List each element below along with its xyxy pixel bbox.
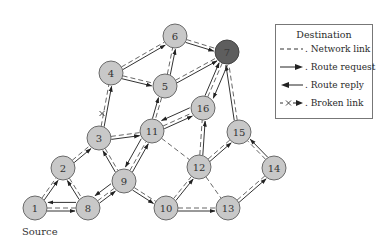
legend-item-route-reply: . Route reply bbox=[276, 76, 372, 94]
node-9: 9 bbox=[112, 169, 136, 193]
route-reply-arrow bbox=[213, 65, 227, 98]
route-request-arrow bbox=[152, 98, 158, 119]
route-request-arrow bbox=[44, 180, 58, 200]
node-label: 7 bbox=[224, 47, 230, 58]
network-link bbox=[130, 141, 146, 170]
node-label: 10 bbox=[160, 203, 173, 214]
network-link bbox=[167, 48, 172, 74]
node-13: 13 bbox=[216, 196, 240, 220]
route-request-arrow bbox=[176, 179, 193, 201]
node-7: 7 bbox=[215, 40, 239, 64]
node-label: 15 bbox=[233, 127, 246, 138]
route-request-arrow bbox=[122, 79, 152, 86]
node-label: 11 bbox=[146, 126, 159, 137]
network-link bbox=[208, 63, 223, 97]
route-request-arrow bbox=[205, 63, 219, 96]
broken-link-icon bbox=[279, 98, 305, 108]
node-10: 10 bbox=[154, 196, 178, 220]
node-label: 8 bbox=[85, 203, 91, 214]
network-link bbox=[72, 146, 90, 161]
route-request-arrow bbox=[132, 144, 148, 172]
route-request-arrow bbox=[177, 61, 217, 83]
route-request-arrow bbox=[132, 190, 153, 203]
route-request-arrow bbox=[123, 45, 165, 69]
node-label: 1 bbox=[32, 203, 38, 214]
node-14: 14 bbox=[262, 156, 286, 180]
node-11: 11 bbox=[140, 119, 164, 143]
legend-title: Destination bbox=[276, 29, 372, 40]
node-label: 9 bbox=[121, 176, 127, 187]
node-label: 6 bbox=[172, 31, 178, 42]
network-link bbox=[98, 188, 115, 201]
node-12: 12 bbox=[187, 155, 211, 179]
network-link bbox=[208, 140, 230, 159]
network-link bbox=[121, 42, 164, 67]
node-label: 14 bbox=[268, 163, 281, 174]
route-request-arrow bbox=[74, 149, 91, 163]
legend-item-broken-link: . Broken link bbox=[276, 94, 372, 112]
route-request-arrow bbox=[67, 181, 79, 200]
node-16: 16 bbox=[191, 96, 215, 120]
route-request-arrow bbox=[239, 179, 266, 203]
network-link bbox=[105, 148, 118, 170]
node-label: 5 bbox=[162, 81, 168, 92]
node-2: 2 bbox=[51, 156, 75, 180]
node-label: 2 bbox=[60, 163, 66, 174]
network-link bbox=[176, 58, 217, 80]
node-4: 4 bbox=[99, 61, 123, 85]
network-link bbox=[206, 177, 221, 198]
network-link bbox=[174, 176, 192, 198]
route-request-arrow bbox=[203, 121, 205, 155]
network-link bbox=[69, 178, 81, 198]
node-label: 13 bbox=[222, 203, 235, 214]
node-5: 5 bbox=[153, 74, 177, 98]
network-link bbox=[200, 120, 202, 155]
source-label: Source bbox=[22, 226, 58, 237]
node-6: 6 bbox=[163, 24, 187, 48]
route-reply-arrow bbox=[125, 139, 141, 167]
network-link bbox=[155, 98, 161, 120]
route-request-arrow bbox=[170, 49, 175, 74]
network-link bbox=[237, 176, 265, 200]
network-link bbox=[247, 141, 265, 160]
network-link bbox=[163, 113, 192, 126]
route-request-arrow bbox=[250, 139, 268, 157]
left-arrow-icon bbox=[279, 80, 305, 90]
dashed-line-icon bbox=[279, 44, 305, 54]
node-label: 4 bbox=[108, 68, 114, 79]
node-label: 3 bbox=[96, 133, 102, 144]
node-3: 3 bbox=[87, 126, 111, 150]
route-request-arrow bbox=[210, 143, 231, 162]
route-request-arrow bbox=[103, 151, 115, 172]
nodes: 12345678910111213141516 bbox=[23, 24, 286, 220]
network-link bbox=[42, 178, 56, 198]
node-15: 15 bbox=[227, 120, 251, 144]
route-reply-arrow bbox=[95, 184, 111, 196]
network-link bbox=[162, 138, 190, 159]
right-arrow-icon bbox=[279, 62, 305, 72]
route-replies bbox=[48, 65, 227, 202]
legend-item-network-link: . Network link bbox=[276, 40, 372, 58]
node-label: 16 bbox=[197, 103, 210, 114]
network-link bbox=[134, 187, 156, 201]
legend: Destination . Network link . Route reque… bbox=[275, 24, 373, 119]
node-1: 1 bbox=[23, 196, 47, 220]
node-8: 8 bbox=[76, 196, 100, 220]
legend-item-route-request: . Route request bbox=[276, 58, 372, 76]
node-label: 12 bbox=[193, 162, 206, 173]
